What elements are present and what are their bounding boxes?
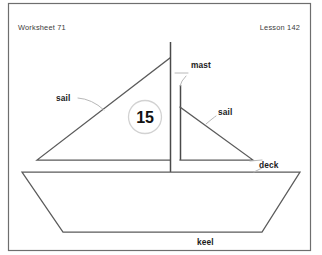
header-worksheet-label: Worksheet 71 bbox=[18, 23, 66, 32]
label-deck: deck bbox=[259, 160, 279, 170]
worksheet-page: Worksheet 71 Lesson 142 sail mast sail d… bbox=[0, 0, 322, 255]
mast-leader-line bbox=[180, 76, 186, 86]
header-lesson-label: Lesson 142 bbox=[260, 23, 300, 32]
label-sail-right: sail bbox=[218, 107, 232, 117]
right-sail-shape bbox=[180, 107, 253, 160]
hull-shape bbox=[22, 172, 300, 232]
sailboat-diagram: Worksheet 71 Lesson 142 sail mast sail d… bbox=[0, 0, 322, 255]
left-sail-leader-line bbox=[78, 98, 104, 110]
right-sail-leader-line bbox=[206, 116, 216, 124]
label-sail-left: sail bbox=[56, 93, 70, 103]
page-border bbox=[9, 4, 311, 251]
label-mast: mast bbox=[191, 60, 211, 70]
marker-number: 15 bbox=[136, 109, 154, 126]
label-keel: keel bbox=[197, 237, 214, 247]
